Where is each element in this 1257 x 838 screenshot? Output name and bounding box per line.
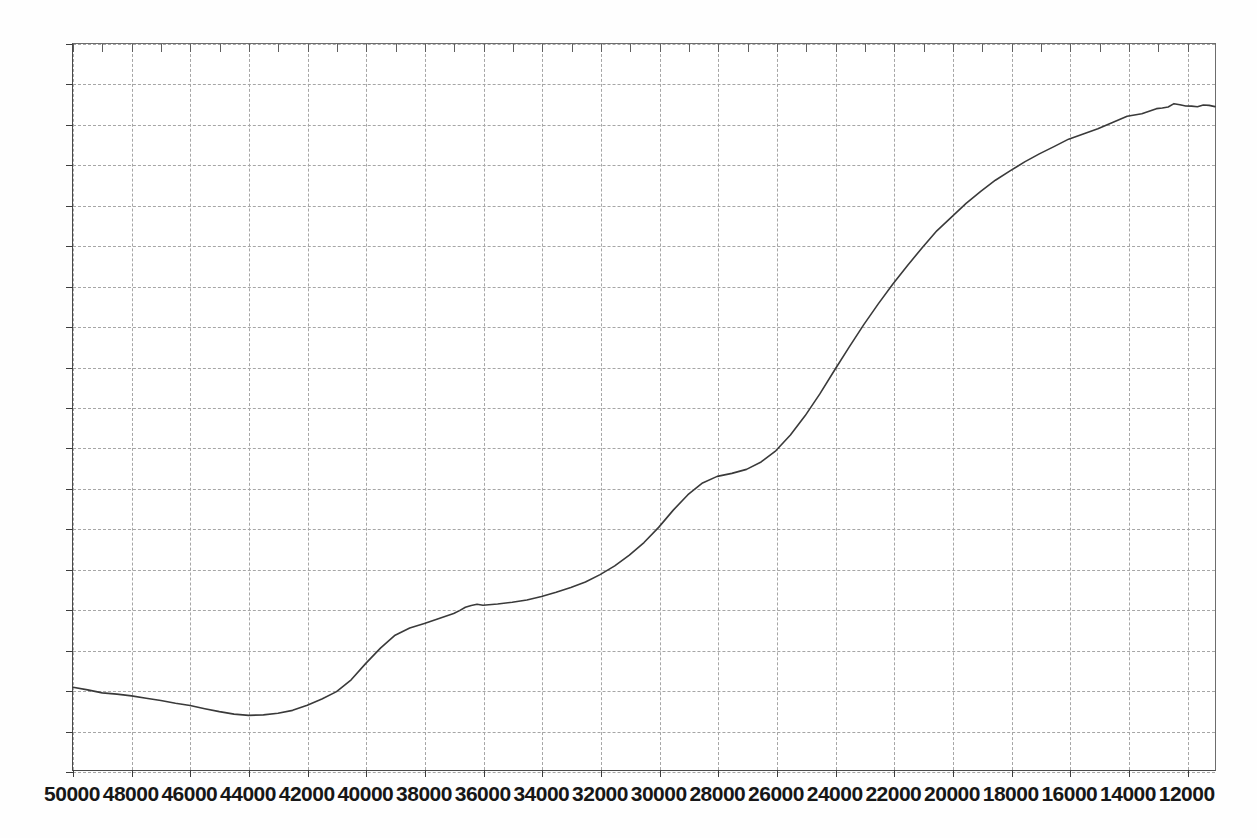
x-tick-mark-top [1188, 44, 1189, 52]
gridline-vertical [1012, 44, 1013, 770]
gridline-vertical [953, 44, 954, 770]
gridline-vertical [601, 44, 602, 770]
gridline-horizontal [73, 287, 1215, 288]
x-tick-mark [1070, 770, 1071, 777]
x-tick-mark-top [660, 44, 661, 52]
x-tick-mark-top [924, 44, 925, 52]
gridline-horizontal [73, 165, 1215, 166]
x-tick-label: 16000 [1041, 782, 1097, 806]
x-tick-mark [836, 770, 837, 777]
y-tick-mark [66, 489, 73, 490]
x-tick-mark [1012, 770, 1013, 777]
gridline-horizontal [73, 368, 1215, 369]
gridline-vertical [308, 44, 309, 770]
gridline-horizontal [73, 772, 1215, 773]
x-tick-label: 34000 [513, 782, 569, 806]
x-tick-label: 22000 [865, 782, 921, 806]
x-tick-label: 14000 [1100, 782, 1156, 806]
x-tick-mark-top [1100, 44, 1101, 52]
gridline-horizontal [73, 44, 1215, 45]
x-tick-mark [660, 770, 661, 777]
x-tick-mark-top [806, 44, 807, 52]
x-tick-mark-top [1070, 44, 1071, 52]
gridline-horizontal [73, 206, 1215, 207]
gridline-horizontal [73, 246, 1215, 247]
x-tick-mark-top [1158, 44, 1159, 52]
gridline-horizontal [73, 732, 1215, 733]
x-tick-mark-top [161, 44, 162, 52]
gridline-vertical [1070, 44, 1071, 770]
x-tick-label: 50000 [44, 782, 100, 806]
y-tick-mark [66, 570, 73, 571]
x-tick-mark-top [865, 44, 866, 52]
x-tick-label: 28000 [689, 782, 745, 806]
x-tick-mark-top [132, 44, 133, 52]
x-tick-mark-top [1129, 44, 1130, 52]
x-tick-label: 42000 [279, 782, 335, 806]
x-tick-mark-top [337, 44, 338, 52]
x-tick-mark-top [1041, 44, 1042, 52]
x-tick-mark [425, 770, 426, 777]
x-tick-mark-top [73, 44, 74, 52]
x-tick-label: 38000 [396, 782, 452, 806]
x-tick-label: 24000 [807, 782, 863, 806]
x-tick-mark [601, 770, 602, 777]
x-tick-mark-top [601, 44, 602, 52]
x-tick-mark [542, 770, 543, 777]
y-tick-mark [66, 772, 73, 773]
x-tick-label: 44000 [220, 782, 276, 806]
y-tick-mark [66, 610, 73, 611]
gridline-vertical [1129, 44, 1130, 770]
gridline-vertical [542, 44, 543, 770]
x-tick-mark-top [630, 44, 631, 52]
gridline-vertical [190, 44, 191, 770]
x-tick-mark-top [190, 44, 191, 52]
x-tick-mark [953, 770, 954, 777]
x-tick-mark-top [220, 44, 221, 52]
x-tick-label: 18000 [983, 782, 1039, 806]
y-tick-mark [66, 327, 73, 328]
x-tick-mark-top [572, 44, 573, 52]
gridline-vertical [73, 44, 74, 770]
y-tick-mark [66, 125, 73, 126]
y-tick-mark [66, 44, 73, 45]
x-tick-mark [73, 770, 74, 777]
x-tick-mark-top [396, 44, 397, 52]
x-tick-mark-top [278, 44, 279, 52]
gridline-vertical [249, 44, 250, 770]
x-tick-mark [777, 770, 778, 777]
gridline-horizontal [73, 570, 1215, 571]
x-tick-mark-top [982, 44, 983, 52]
x-tick-mark-top [777, 44, 778, 52]
x-tick-mark-top [249, 44, 250, 52]
x-tick-mark [308, 770, 309, 777]
x-tick-label: 26000 [748, 782, 804, 806]
gridline-vertical [366, 44, 367, 770]
x-tick-mark-top [308, 44, 309, 52]
y-tick-mark [66, 448, 73, 449]
gridline-horizontal [73, 489, 1215, 490]
x-tick-label: 40000 [337, 782, 393, 806]
gridline-horizontal [73, 691, 1215, 692]
x-tick-mark-top [748, 44, 749, 52]
x-tick-label: 36000 [455, 782, 511, 806]
gridline-horizontal [73, 448, 1215, 449]
x-tick-label: 30000 [631, 782, 687, 806]
x-tick-mark-top [689, 44, 690, 52]
gridline-horizontal [73, 610, 1215, 611]
y-tick-mark [66, 691, 73, 692]
x-tick-label: 12000 [1159, 782, 1215, 806]
x-tick-mark [366, 770, 367, 777]
y-tick-mark [66, 246, 73, 247]
gridline-horizontal [73, 408, 1215, 409]
x-tick-mark-top [1012, 44, 1013, 52]
y-tick-mark [66, 206, 73, 207]
gridline-horizontal [73, 125, 1215, 126]
gridline-horizontal [73, 529, 1215, 530]
x-tick-mark [894, 770, 895, 777]
x-tick-label: 48000 [103, 782, 159, 806]
x-tick-mark [484, 770, 485, 777]
x-tick-mark [190, 770, 191, 777]
x-tick-mark-top [454, 44, 455, 52]
y-tick-mark [66, 287, 73, 288]
